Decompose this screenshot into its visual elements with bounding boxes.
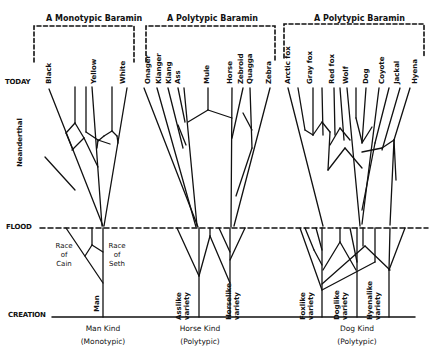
dog-kind-type: (Polytypic) (317, 338, 397, 346)
horse-kind-label: Horse Kind (160, 325, 240, 333)
era-creation: CREATION (8, 312, 46, 319)
man-label-neanderthal: Neanderthal (17, 118, 24, 167)
horse-label-kiang: Kiang (166, 61, 173, 84)
dog-label-wolf: Wolf (343, 66, 350, 84)
dog-variety-foxlike-2: variety (308, 292, 315, 320)
dog-variety-foxlike: Foxlike (300, 292, 307, 320)
man-label-white: White (120, 61, 127, 84)
era-flood: FLOOD (6, 224, 32, 231)
race-of-cain: Race of Cain (52, 243, 76, 268)
horse-label-horse: Horse (227, 61, 234, 84)
baramin-title-polytypic-dog: A Polytypic Baramin (314, 15, 405, 23)
baramin-title-monotypic: A Monotypic Baramin (46, 15, 142, 23)
dog-label-hyena: Hyena (412, 59, 419, 84)
dog-variety-doglike-2: variety (342, 292, 349, 320)
race-of-seth: Race of Seth (106, 243, 128, 268)
horse-label-zebra: Zebra (266, 61, 273, 84)
horse-label-quagga: Quagga (247, 54, 254, 84)
man-root-label: Man (94, 295, 101, 312)
horse-variety-horselike: Horselike (226, 283, 233, 320)
horse-label-zebroid: Zebroid (238, 53, 245, 84)
horse-variety-horselike-2: variety (234, 292, 241, 320)
dog-variety-hyenalike: Hyenalike (367, 281, 374, 320)
horse-label-onager: Onager (145, 55, 152, 84)
man-tree-post-flood (45, 87, 127, 226)
baramin-brackets (34, 24, 424, 62)
horse-variety-asslike-2: variety (184, 292, 191, 320)
man-label-yellow: Yellow (91, 59, 98, 84)
baramin-title-polytypic-horse: A Polytypic Baramin (167, 15, 258, 23)
baramin-diagram: A Monotypic Baramin A Polytypic Baramin … (0, 0, 436, 351)
horse-variety-asslike: Asslike (176, 292, 183, 320)
dog-label-dog: Dog (363, 68, 370, 84)
dog-tree-pre-flood (300, 228, 405, 317)
man-label-black: Black (46, 63, 53, 84)
dog-label-coyote: Coyote (379, 57, 386, 84)
dog-variety-doglike: Doglike (334, 290, 341, 320)
dog-variety-hyenalike-2: variety (375, 292, 382, 320)
dog-label-jackal: Jackal (394, 61, 401, 84)
man-kind-type: (Monotypic) (63, 338, 143, 346)
horse-label-ass: Ass (175, 70, 182, 84)
horse-kind-type: (Polytypic) (160, 338, 240, 346)
horse-label-mule: Mule (204, 65, 211, 84)
era-today: TODAY (5, 79, 30, 86)
horse-label-kianger: Kianger (156, 53, 163, 84)
man-kind-label: Man Kind (63, 325, 143, 333)
dog-kind-label: Dog Kind (317, 325, 397, 333)
dog-tree-post-flood (288, 88, 410, 226)
dog-label-red-fox: Red fox (329, 54, 336, 84)
dog-label-gray-fox: Gray fox (307, 51, 314, 84)
dog-label-arctic-fox: Arctic fox (285, 46, 292, 84)
horse-tree-post-flood (144, 88, 270, 227)
